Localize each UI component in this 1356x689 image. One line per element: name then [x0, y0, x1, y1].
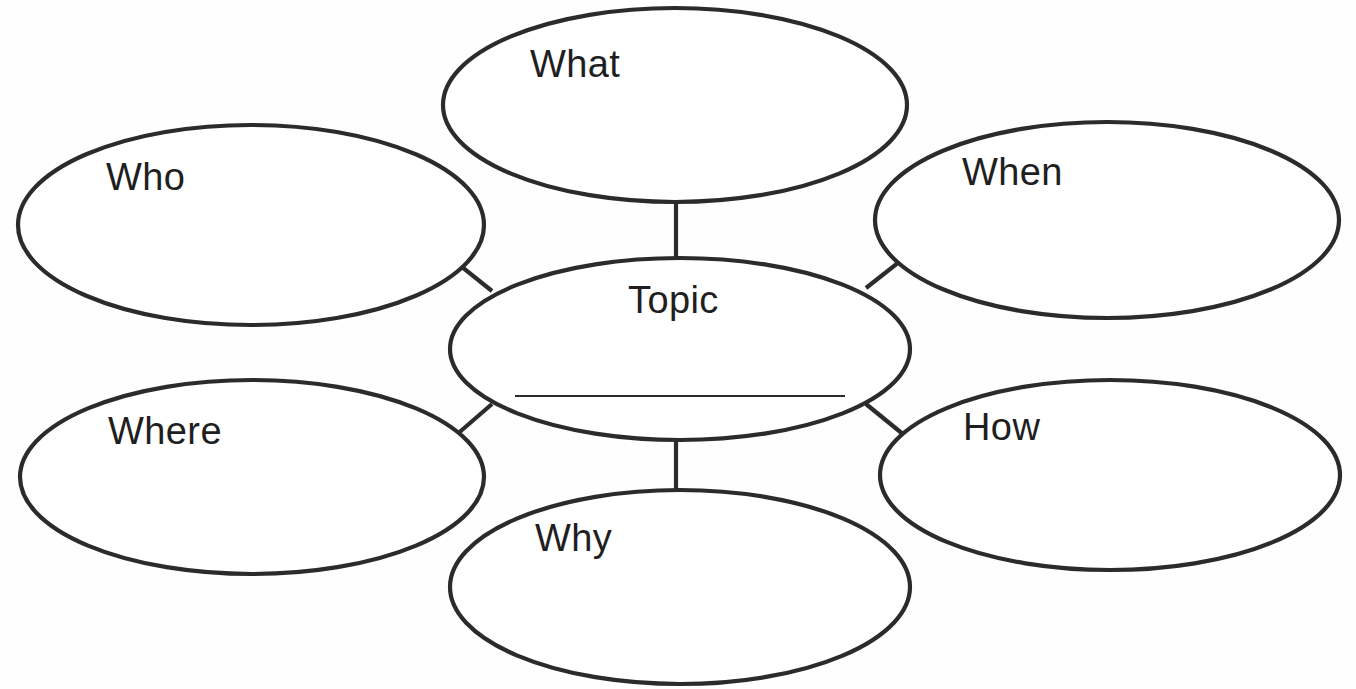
- bubble-label-who: Who: [106, 158, 185, 196]
- bubble-why[interactable]: [450, 490, 910, 684]
- bubble-who[interactable]: [18, 125, 484, 325]
- bubble-label-when: When: [962, 153, 1063, 191]
- bubble-label-why: Why: [535, 519, 612, 557]
- bubble-label-what: What: [530, 45, 620, 83]
- bubble-what[interactable]: [443, 8, 907, 202]
- worksheet-canvas: What Who When Topic Where How Why: [0, 0, 1356, 689]
- bubble-when[interactable]: [875, 122, 1339, 318]
- bubble-label-topic: Topic: [628, 281, 719, 319]
- concept-web-svg: [0, 0, 1356, 689]
- bubble-how[interactable]: [880, 380, 1340, 570]
- bubble-label-where: Where: [108, 412, 222, 450]
- bubble-where[interactable]: [20, 380, 484, 574]
- bubble-label-how: How: [963, 408, 1040, 446]
